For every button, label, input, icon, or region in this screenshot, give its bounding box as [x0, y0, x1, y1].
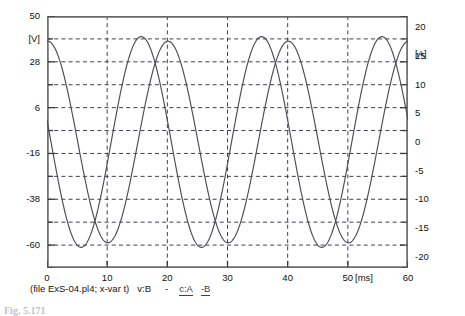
ticks-bottom-axis: [47, 261, 408, 267]
left-axis-tick-3: -16: [0, 148, 40, 158]
right-axis-tick-5: -5: [415, 166, 455, 176]
left-axis-unit: [V]: [4, 34, 40, 44]
plot-area: [47, 16, 408, 268]
x-axis-tick-6: 60: [388, 273, 428, 283]
right-axis-tick-2: 10: [415, 80, 455, 90]
right-axis-tick-4: 0: [415, 137, 455, 147]
figure-number-caption: Fig. 5.171: [4, 305, 45, 316]
trace-caption: (file ExS-04.pl4; x-var t)v:B-c:A-B: [30, 283, 210, 296]
left-axis-tick-4: -38: [0, 194, 40, 204]
left-axis-tick-2: 6: [0, 103, 40, 113]
x-axis-tick-2: 20: [147, 273, 187, 283]
left-axis-tick-1: 28: [0, 57, 40, 67]
right-axis-tick-7: -15: [415, 223, 455, 233]
grid-vertical: [107, 16, 348, 268]
right-axis-unit: [A]: [415, 49, 427, 59]
caption-file-text: (file ExS-04.pl4; x-var t): [30, 283, 129, 294]
right-axis-tick-8: -20: [415, 252, 455, 262]
x-axis-tick-3: 30: [208, 273, 248, 283]
figure-number: Fig. 5.171: [4, 305, 45, 316]
caption-separator: -: [165, 283, 168, 294]
waveform-plot: [47, 16, 408, 268]
x-axis-tick-0: 0: [27, 273, 67, 283]
caption-series-v: v:B: [137, 283, 151, 294]
x-axis-tick-4: 40: [268, 273, 308, 283]
right-axis-tick-0: 20: [415, 22, 455, 32]
right-axis-tick-3: 5: [415, 108, 455, 118]
caption-series-c-b: -B: [201, 283, 211, 296]
left-axis-tick-5: -60: [0, 240, 40, 250]
left-axis-tick-0: 50: [0, 11, 40, 21]
x-axis-tick-1: 10: [87, 273, 127, 283]
right-axis-tick-6: -10: [415, 194, 455, 204]
ticks-right-axis: [400, 16, 407, 268]
caption-series-c-a: c:A: [179, 283, 193, 296]
x-axis-unit: [ms]: [355, 273, 373, 283]
